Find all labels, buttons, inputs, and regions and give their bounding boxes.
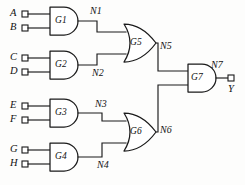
wire-n4-to-g6 [78, 143, 126, 157]
net-label-n1: N1 [90, 6, 102, 16]
input-label-b: B [10, 22, 17, 33]
net-label-n5: N5 [160, 41, 172, 51]
gate-label-g3: G3 [55, 108, 67, 118]
input-label-f: F [10, 114, 17, 125]
logic-circuit-diagram: A B C D E F G H Y G1 G2 G3 G4 G5 G6 G7 N… [0, 0, 245, 185]
net-label-n4: N4 [97, 160, 109, 170]
input-pad-d[interactable] [22, 69, 28, 75]
output-label-y: Y [228, 84, 234, 95]
input-pad-g[interactable] [22, 147, 28, 153]
wire-n1-to-g5 [78, 21, 126, 32]
circuit-schematic-svg [0, 0, 245, 185]
gate-label-g5: G5 [130, 38, 142, 48]
input-pad-c[interactable] [22, 55, 28, 61]
net-label-n7: N7 [211, 60, 223, 70]
gate-label-g6: G6 [130, 127, 142, 137]
output-pad-y[interactable] [228, 75, 234, 81]
net-label-n6: N6 [160, 125, 172, 135]
input-label-g: G [10, 144, 18, 155]
wire-n3-to-g6 [78, 113, 126, 121]
input-pad-b[interactable] [22, 25, 28, 31]
input-label-d: D [10, 66, 18, 77]
input-label-a: A [10, 8, 17, 19]
gate-label-g7: G7 [191, 73, 203, 83]
net-label-n3: N3 [95, 99, 107, 109]
input-label-h: H [10, 158, 18, 169]
net-label-n2: N2 [92, 68, 104, 78]
input-label-e: E [10, 100, 17, 111]
input-pad-e[interactable] [22, 103, 28, 109]
input-label-c: C [10, 52, 17, 63]
gate-label-g1: G1 [55, 16, 67, 26]
gate-label-g4: G4 [55, 152, 67, 162]
input-pad-a[interactable] [22, 11, 28, 17]
input-pad-h[interactable] [22, 161, 28, 167]
wire-n2-to-g5 [78, 54, 126, 65]
gate-label-g2: G2 [55, 60, 67, 70]
input-pad-f[interactable] [22, 117, 28, 123]
